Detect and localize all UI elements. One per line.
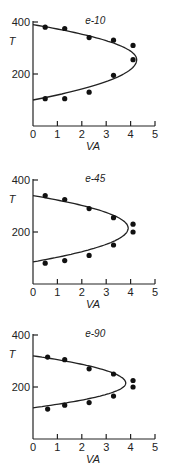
x-tick-label: 5 [152, 441, 158, 453]
data-point [62, 197, 67, 202]
data-point [130, 222, 135, 227]
y-tick-label: 200 [12, 226, 30, 238]
x-tick-label: 2 [79, 128, 85, 140]
chart-panel-e-45: 200400012345VATe-45 [9, 173, 158, 310]
chart-panel-e-90: 200400012345VATe-90 [9, 328, 158, 465]
y-tick-label: 400 [12, 16, 30, 28]
x-tick-label: 2 [79, 441, 85, 453]
y-tick-label: 400 [12, 329, 30, 341]
data-point [130, 229, 135, 234]
data-point [43, 261, 48, 266]
panel-title: e-90 [85, 328, 105, 339]
panel-title: e-10 [85, 15, 105, 26]
data-point [130, 384, 135, 389]
x-tick-label: 1 [54, 286, 60, 298]
x-tick-label: 5 [152, 286, 158, 298]
data-point [43, 25, 48, 30]
y-axis-label: T [9, 193, 17, 205]
y-tick-label: 200 [12, 381, 30, 393]
x-axis-label: VA [86, 298, 100, 310]
y-axis-label: T [9, 35, 17, 47]
x-tick-label: 4 [128, 441, 134, 453]
x-tick-label: 1 [54, 128, 60, 140]
x-tick-label: 2 [79, 286, 85, 298]
data-point [87, 400, 92, 405]
data-point [111, 73, 116, 78]
x-axis-label: VA [86, 140, 100, 152]
data-point [111, 371, 116, 376]
data-point [87, 90, 92, 95]
data-point [111, 215, 116, 220]
x-tick-label: 4 [128, 286, 134, 298]
x-axis-label: VA [86, 453, 100, 465]
x-tick-label: 0 [30, 441, 36, 453]
data-point [43, 193, 48, 198]
data-point [62, 357, 67, 362]
data-point [45, 407, 50, 412]
data-point [45, 355, 50, 360]
data-point [111, 242, 116, 247]
data-point [130, 57, 135, 62]
data-point [87, 206, 92, 211]
x-tick-label: 1 [54, 441, 60, 453]
data-point [111, 394, 116, 399]
y-axis-label: T [9, 348, 17, 360]
fit-curve [33, 356, 126, 408]
data-point [87, 253, 92, 258]
panel-title: e-45 [85, 173, 105, 184]
x-tick-label: 4 [128, 128, 134, 140]
x-tick-label: 5 [152, 128, 158, 140]
data-point [43, 96, 48, 101]
data-point [62, 258, 67, 263]
chart-panel-e-10: 200400012345VATe-10 [9, 15, 158, 152]
data-point [111, 38, 116, 43]
data-point [62, 26, 67, 31]
data-point [130, 378, 135, 383]
y-tick-label: 200 [12, 68, 30, 80]
x-tick-label: 3 [103, 128, 109, 140]
x-tick-label: 3 [103, 441, 109, 453]
data-point [62, 403, 67, 408]
x-tick-label: 0 [30, 286, 36, 298]
x-tick-label: 0 [30, 128, 36, 140]
fit-curve [33, 25, 137, 100]
data-point [62, 96, 67, 101]
chart-figure: 200400012345VATe-10200400012345VATe-4520… [0, 0, 177, 469]
x-tick-label: 3 [103, 286, 109, 298]
data-point [87, 35, 92, 40]
fit-curve [33, 196, 128, 262]
data-point [87, 366, 92, 371]
data-point [130, 43, 135, 48]
y-tick-label: 400 [12, 174, 30, 186]
